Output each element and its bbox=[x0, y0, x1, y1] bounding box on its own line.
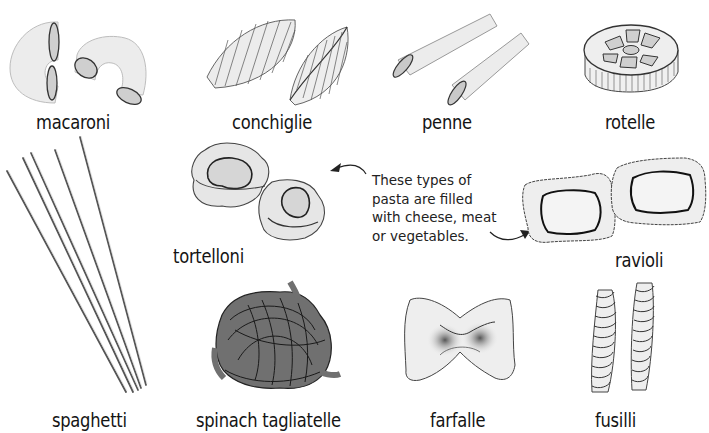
spaghetti-illustration bbox=[7, 137, 146, 392]
label-conchiglie: conchiglie bbox=[232, 112, 312, 132]
filled-pasta-caption: These types of pasta are filled with che… bbox=[372, 171, 502, 245]
fusilli-illustration bbox=[592, 283, 654, 392]
farfalle-illustration bbox=[405, 298, 515, 380]
pasta-diagram: macaroni conchiglie penne rotelle tortel… bbox=[0, 0, 709, 433]
penne-illustration bbox=[390, 14, 529, 107]
ravioli-illustration bbox=[523, 158, 706, 242]
tortelloni-illustration bbox=[192, 143, 325, 240]
macaroni-illustration bbox=[10, 22, 146, 108]
caption-line: or vegetables. bbox=[372, 227, 502, 246]
caption-line: pasta are filled bbox=[372, 190, 502, 209]
label-penne: penne bbox=[422, 112, 472, 132]
label-macaroni: macaroni bbox=[36, 112, 110, 132]
label-spaghetti: spaghetti bbox=[52, 410, 127, 430]
spinach-tagliatelle-illustration bbox=[214, 282, 340, 388]
caption-line: These types of bbox=[372, 171, 502, 190]
conchiglie-illustration bbox=[207, 20, 348, 105]
label-rotelle: rotelle bbox=[605, 112, 655, 132]
rotelle-illustration bbox=[584, 25, 678, 92]
label-farfalle: farfalle bbox=[430, 410, 485, 430]
label-spinach-tagliatelle: spinach tagliatelle bbox=[196, 410, 341, 430]
label-fusilli: fusilli bbox=[595, 410, 636, 430]
label-ravioli: ravioli bbox=[615, 250, 663, 270]
caption-line: with cheese, meat bbox=[372, 208, 502, 227]
label-tortelloni: tortelloni bbox=[173, 246, 244, 266]
